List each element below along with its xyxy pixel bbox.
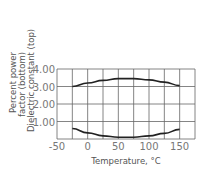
- x-tick-label: 150: [170, 141, 189, 152]
- y-tick-label: 4.00: [33, 64, 55, 75]
- y-axis-ticks: 1.002.003.004.00: [33, 64, 55, 128]
- x-tick-label: 100: [139, 141, 158, 152]
- y-tick-label: 2.00: [33, 99, 55, 110]
- x-tick-label: 0: [84, 141, 90, 152]
- chart-grid: [57, 69, 195, 139]
- power-factor-line: [72, 129, 179, 138]
- x-tick-label: 50: [112, 141, 125, 152]
- y-tick-label: 1.00: [33, 117, 55, 128]
- dielectric-constant-line: [72, 79, 179, 87]
- x-axis-label: Temperature, °C: [90, 156, 160, 166]
- x-axis-ticks: -50050100150: [49, 141, 189, 152]
- y-tick-label: 3.00: [33, 82, 55, 93]
- data-series: [72, 79, 179, 138]
- x-tick-label: -50: [49, 141, 65, 152]
- line-chart: 1.002.003.004.00 -50050100150 Temperatur…: [0, 0, 205, 169]
